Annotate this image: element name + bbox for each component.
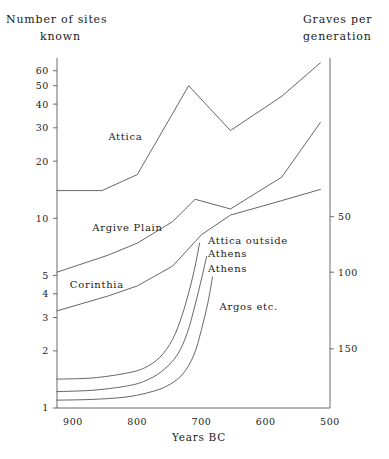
chart-header: Number of sites known Graves per generat… (6, 13, 372, 43)
y-right-tick-label-100: 100 (338, 267, 358, 278)
sites-and-graves-line-chart: Number of sites known Graves per generat… (0, 0, 389, 459)
series-line-argive-plain (57, 122, 320, 272)
left-axis-title-line2: known (40, 30, 81, 43)
y-left-tick-label-40: 40 (36, 99, 49, 110)
series-label-athens: Athens (207, 263, 247, 274)
y-right-tick-label-150: 50 (338, 211, 351, 222)
left-axis-title-line1: Number of sites (6, 13, 107, 26)
x-tick-label-700: 700 (192, 416, 212, 427)
y-left-tick-label-20: 20 (36, 156, 49, 167)
y-left-tick-label-50: 50 (36, 80, 49, 91)
series-line-athens (57, 256, 207, 391)
y-left-tick-label-10: 10 (36, 213, 49, 224)
series-line-argos-etc (57, 277, 212, 400)
y-left-tick-label-3: 3 (42, 312, 49, 323)
chart-container: Number of sites known Graves per generat… (0, 0, 389, 459)
series-line-attica-outside-athens (57, 243, 200, 379)
y-left-tick-label-5: 5 (42, 270, 49, 281)
x-tick-label-500: 500 (320, 416, 340, 427)
x-tick-label-600: 600 (256, 416, 276, 427)
series-label-argive-plain: Argive Plain (91, 222, 162, 233)
x-tick-label-800: 800 (127, 416, 147, 427)
right-axis-title-line1: Graves per (303, 13, 372, 26)
y-left-tick-label-2: 2 (42, 345, 49, 356)
series-line-attica (57, 63, 320, 191)
y-left-tick-label-60: 60 (36, 65, 49, 76)
axis-ticks: 1234510203040506015010050900800700600500 (36, 65, 358, 427)
y-right-tick-label-50: 150 (338, 343, 358, 354)
series-label-attica: Attica (107, 131, 142, 142)
x-tick-label-900: 900 (63, 416, 83, 427)
y-left-tick-label-4: 4 (42, 288, 49, 299)
y-left-tick-label-1: 1 (42, 402, 49, 413)
series-label-attica-outside-athens: Attica outside (207, 235, 288, 246)
series-label-corinthia: Corinthia (70, 279, 124, 290)
series-label-argos-etc: Argos etc. (219, 301, 278, 312)
x-axis-title: Years BC (171, 431, 226, 443)
right-axis-title-line2: generation (303, 30, 372, 43)
y-left-tick-label-30: 30 (36, 122, 49, 133)
series-annotations: AtticaArgive PlainCorinthiaAttica outsid… (70, 131, 288, 312)
series-label-attica-outside-athens-line2: Athens (207, 248, 247, 259)
